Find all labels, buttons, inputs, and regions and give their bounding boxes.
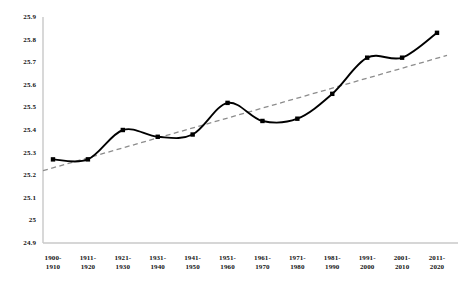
y-axis-tick-label: 25.1 bbox=[10, 194, 36, 202]
data-point-marker bbox=[121, 128, 125, 132]
y-axis-tick-label: 25.9 bbox=[10, 13, 36, 21]
data-point-marker bbox=[295, 117, 299, 121]
data-point-marker bbox=[225, 101, 229, 105]
chart-container: 25.925.825.725.625.525.425.325.225.12524… bbox=[0, 0, 466, 284]
x-axis-tick-label: 2011- 2020 bbox=[417, 254, 457, 272]
y-axis-tick-label: 25.8 bbox=[10, 36, 36, 44]
y-axis-tick-label: 25.5 bbox=[10, 103, 36, 111]
data-point-marker bbox=[400, 55, 404, 59]
data-point-marker bbox=[51, 157, 55, 161]
trendline bbox=[43, 55, 447, 170]
data-point-marker bbox=[86, 157, 90, 161]
data-point-marker bbox=[190, 132, 194, 136]
y-axis-tick-label: 25.3 bbox=[10, 149, 36, 157]
data-series-line bbox=[53, 33, 437, 162]
data-point-marker bbox=[365, 55, 369, 59]
data-point-marker bbox=[330, 92, 334, 96]
chart-plot-area bbox=[0, 0, 466, 284]
y-axis-tick-label: 24.9 bbox=[10, 239, 36, 247]
data-point-marker bbox=[156, 135, 160, 139]
y-axis-tick-label: 25.2 bbox=[10, 171, 36, 179]
data-point-marker bbox=[260, 119, 264, 123]
y-axis-tick-label: 25.7 bbox=[10, 58, 36, 66]
data-point-markers bbox=[51, 31, 439, 162]
y-axis-tick-label: 25.4 bbox=[10, 126, 36, 134]
data-point-marker bbox=[435, 31, 439, 35]
y-axis-tick-label: 25 bbox=[10, 216, 36, 224]
y-axis-tick-label: 25.6 bbox=[10, 81, 36, 89]
